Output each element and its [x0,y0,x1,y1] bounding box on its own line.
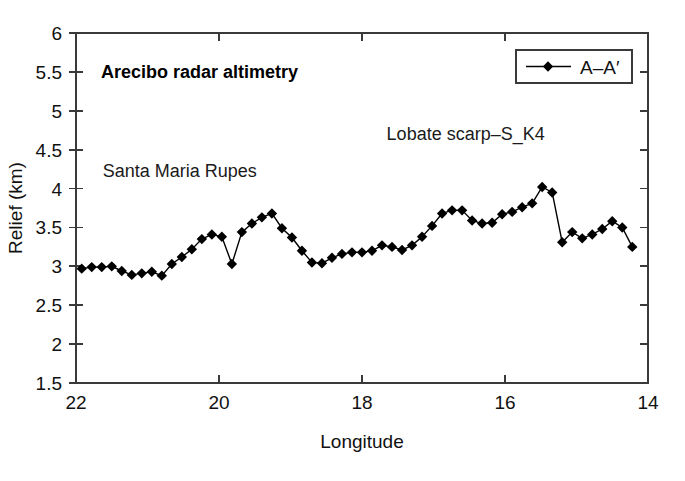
x-tick-label: 18 [351,392,372,413]
annotation-lobate-scarp: Lobate scarp–S_K4 [387,124,545,145]
y-tick-label: 2 [51,334,62,355]
data-point-marker [147,267,157,277]
data-point-marker [137,268,147,278]
data-point-marker [257,212,267,222]
data-point-marker [627,242,637,252]
data-point-marker [507,207,517,217]
data-series-group [77,182,638,281]
data-point-marker [387,242,397,252]
x-axis-title: Longitude [320,431,403,452]
data-point-marker [97,262,107,272]
annotation-santa-maria-rupes: Santa Maria Rupes [103,161,257,181]
y-tick-label: 5.5 [36,62,62,83]
x-axis-ticks [76,33,648,383]
axis-frame [76,33,648,383]
data-point-marker [347,247,357,257]
data-point-marker [317,258,327,268]
y-axis-tick-labels: 1.522.533.544.555.56 [36,23,63,394]
data-point-marker [77,263,87,273]
data-point-marker [367,246,377,256]
y-tick-label: 1.5 [36,373,62,394]
legend-entry-label: A–A′ [580,57,620,78]
data-point-marker [217,232,227,242]
x-axis-tick-labels: 2220181614 [65,392,659,413]
x-tick-label: 16 [494,392,515,413]
data-point-marker [447,205,457,215]
chart-legend[interactable]: A–A′ [516,50,632,83]
x-tick-label: 20 [208,392,229,413]
chart-canvas: 2220181614 1.522.533.544.555.56 Longitud… [0,0,685,481]
x-tick-label: 14 [637,392,659,413]
y-tick-label: 3 [51,256,62,277]
y-tick-label: 5 [51,101,62,122]
data-point-marker [227,259,237,269]
chart-figure: 2220181614 1.522.533.544.555.56 Longitud… [0,0,685,481]
data-point-marker [617,222,627,232]
chart-annotations: Santa Maria RupesLobate scarp–S_K4 [103,124,545,181]
data-point-marker [87,262,97,272]
plot-frame [76,33,648,383]
y-tick-label: 3.5 [36,217,62,238]
data-point-marker [587,229,597,239]
data-point-marker [517,202,527,212]
series-line-a-aprime [82,187,633,276]
data-point-marker [547,187,557,197]
data-point-marker [267,208,277,218]
y-tick-label: 4.5 [36,140,62,161]
y-tick-label: 2.5 [36,295,62,316]
data-point-marker [537,182,547,192]
data-point-marker [127,270,137,280]
data-point-marker [327,253,337,263]
y-axis-ticks [69,33,648,383]
data-point-marker [377,240,387,250]
data-point-marker [357,247,367,257]
y-axis-title: Relief (km) [5,162,26,254]
data-point-marker [397,245,407,255]
data-point-marker [527,198,537,208]
x-tick-label: 22 [65,392,86,413]
data-point-marker [117,266,127,276]
data-point-marker [477,218,487,228]
data-point-marker [107,261,117,271]
data-point-marker [337,249,347,259]
data-point-marker [577,233,587,243]
data-point-marker [207,229,217,239]
y-tick-label: 4 [51,179,62,200]
y-tick-label: 6 [51,23,62,44]
chart-title: Arecibo radar altimetry [101,62,298,82]
